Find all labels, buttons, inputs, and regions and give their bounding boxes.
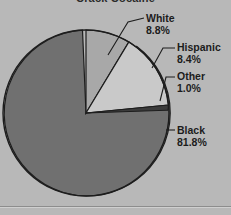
- footer-divider-highlight: [0, 207, 231, 208]
- slice-label-white-name: White: [146, 12, 175, 24]
- slice-label-black-value: 81.8%: [177, 136, 207, 148]
- slice-label-white: White 8.8%: [146, 12, 175, 36]
- slice-label-hispanic: Hispanic 8.4%: [177, 41, 221, 65]
- slice-label-white-value: 8.8%: [146, 24, 175, 36]
- slice-label-hispanic-name: Hispanic: [177, 41, 221, 53]
- pie-chart-graphic: [0, 0, 231, 215]
- slice-label-other-value: 1.0%: [177, 82, 205, 94]
- pie-chart-figure: Crack Cocaine White 8.8% Hispanic 8.4% O…: [0, 0, 231, 215]
- slice-label-black: Black 81.8%: [177, 124, 207, 148]
- slice-label-black-name: Black: [177, 124, 205, 136]
- slice-label-other: Other 1.0%: [177, 70, 205, 94]
- slice-label-other-name: Other: [177, 70, 205, 82]
- slice-label-hispanic-value: 8.4%: [177, 53, 221, 65]
